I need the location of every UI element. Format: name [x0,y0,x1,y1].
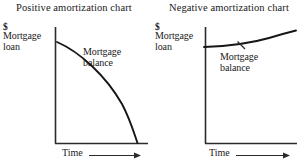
positive-amortization-plot [0,0,150,166]
negative-amortization-plot [151,0,301,166]
negative-amortization-figure: Negative amortization chart $ Mortgage l… [151,0,301,166]
time-arrow-head [283,153,290,159]
mortgage-balance-curve [204,31,296,48]
time-arrow-head [134,153,141,159]
positive-amortization-figure: Positive amortization chart $ Mortgage l… [0,0,150,166]
mortgage-balance-curve [57,42,138,143]
